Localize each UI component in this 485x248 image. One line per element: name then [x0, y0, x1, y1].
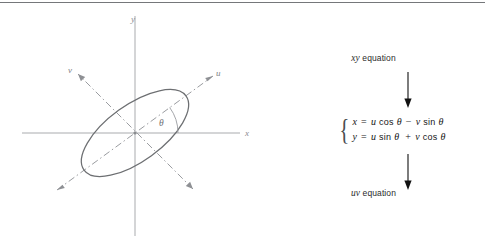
uv-equation-label: uv equation [262, 188, 485, 198]
v-axis-arrowhead-positive [78, 74, 85, 81]
equation-equals: = [360, 116, 368, 127]
u-axis-arrowhead-negative [57, 185, 65, 190]
equation-term1-angle: θ [394, 131, 399, 142]
rotated-axes-diagram: y x u v θ [0, 0, 262, 248]
equation-equals: = [360, 131, 368, 142]
transformation-flow-panel: xy equation { x=ucosθ−vsinθ y=usinθ+vcos… [262, 0, 485, 248]
x-axis-label: x [244, 128, 249, 138]
arrow-head [404, 99, 411, 109]
y-axis-label: y [130, 14, 135, 24]
xy-equation-label-italic: xy [351, 53, 360, 63]
equation-term2-function: cos [423, 132, 438, 142]
v-axis-arrowhead-negative [186, 182, 193, 189]
equation-term2-coef: v [415, 131, 420, 142]
uv-equation-label-text: equation [360, 188, 396, 198]
equation-brace: { [339, 114, 349, 144]
u-axis-label: u [216, 68, 221, 78]
equation-lhs: y [352, 131, 357, 142]
origin-point [133, 131, 136, 134]
v-axis-label: v [68, 65, 72, 75]
theta-angle-label: θ [159, 118, 164, 128]
equation-term1-coef: u [371, 116, 376, 127]
xy-equation-label-text: equation [360, 53, 396, 63]
equation-term1-function: cos [379, 117, 394, 127]
equation-term1-angle: θ [397, 116, 402, 127]
equation-row: y=usinθ+vcosθ [352, 130, 445, 144]
equation-term1-coef: u [371, 131, 376, 142]
theta-arc [170, 108, 178, 134]
equation-term2-angle: θ [438, 116, 443, 127]
arrow-xy-to-equations [262, 70, 485, 110]
equation-operator: + [404, 131, 412, 142]
arrow-equations-to-uv [262, 152, 485, 192]
figure-page: y x u v θ xy equation { x=ucosθ−vsinθ [0, 0, 485, 248]
diagram-canvas: y x u v θ [0, 0, 262, 248]
uv-equation-label-italic: uv [351, 188, 360, 198]
equation-lhs: x [352, 116, 357, 127]
equation-term2-angle: θ [440, 131, 445, 142]
equation-operator: − [405, 116, 413, 127]
transformation-equations: { x=ucosθ−vsinθ y=usinθ+vcosθ [262, 114, 485, 150]
xy-equation-label: xy equation [262, 53, 485, 63]
equation-term2-coef: v [416, 116, 421, 127]
equation-term2-function: sin [423, 117, 435, 127]
equation-row: x=ucosθ−vsinθ [352, 115, 445, 129]
equation-term1-function: sin [379, 132, 391, 142]
